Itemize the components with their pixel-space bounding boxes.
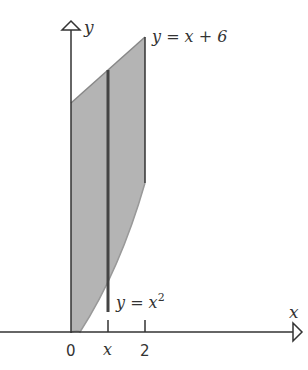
diagram-canvas: y y = x + 6 y = x2 x 0 x 2 [0, 0, 308, 370]
tick-label-2: 2 [140, 342, 150, 360]
y-axis-label: y [83, 17, 94, 37]
lower-curve-label-exp: 2 [158, 291, 165, 304]
lower-curve-label: y = x2 [115, 291, 165, 312]
y-axis-arrow-icon [62, 21, 80, 30]
upper-curve-label: y = x + 6 [151, 27, 227, 46]
x-axis-arrow-icon [293, 323, 302, 341]
x-axis-label: x [289, 302, 299, 322]
lower-curve-label-base: y = x [115, 293, 158, 312]
tick-label-x: x [103, 340, 112, 359]
tick-label-origin: 0 [66, 342, 76, 360]
